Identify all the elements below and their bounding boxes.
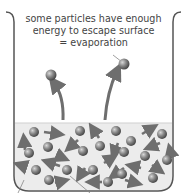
caption-line-1: some particles have enough (18, 13, 169, 25)
caption: some particles have enough energy to esc… (18, 13, 169, 49)
escaping-particle (46, 70, 57, 81)
escaping-particle (119, 59, 130, 70)
caption-line-2: energy to escape surface (18, 25, 169, 37)
caption-line-3: = evaporation (18, 37, 169, 49)
